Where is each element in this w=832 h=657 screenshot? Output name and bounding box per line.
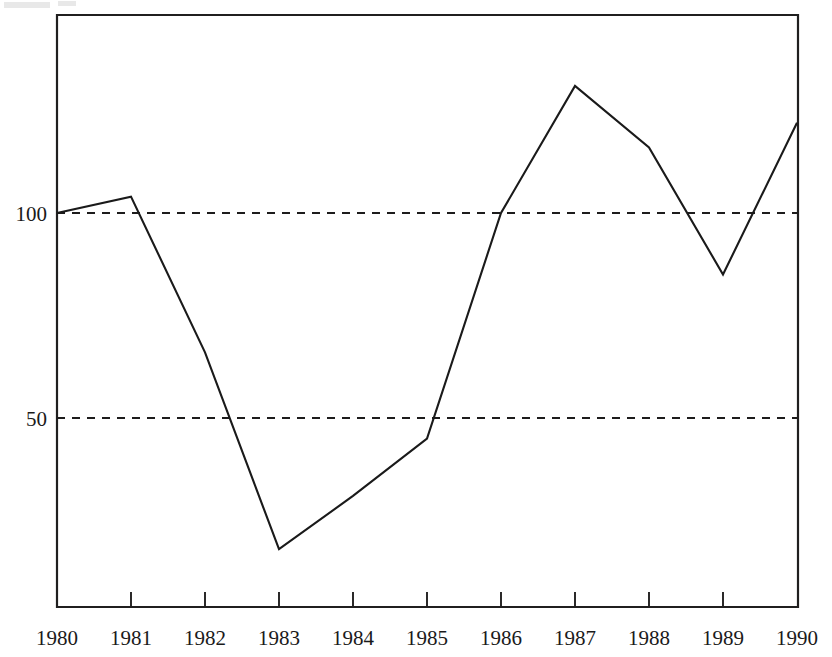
xtick-label-1988: 1988 <box>628 626 670 650</box>
scan-artifact-secondary <box>58 1 76 6</box>
xtick-label-1990: 1990 <box>776 626 818 650</box>
data-series-line <box>57 86 797 549</box>
line-chart-figure: 100 50 1980 1981 1982 1983 1984 1985 198… <box>0 0 832 657</box>
xtick-label-1981: 1981 <box>110 626 152 650</box>
xtick-label-1989: 1989 <box>702 626 744 650</box>
xtick-label-1984: 1984 <box>332 626 375 650</box>
xtick-label-1982: 1982 <box>184 626 226 650</box>
xtick-label-1987: 1987 <box>554 626 596 650</box>
xtick-label-1983: 1983 <box>258 626 300 650</box>
scan-artifact <box>4 2 50 8</box>
xtick-label-1980: 1980 <box>36 626 78 650</box>
plot-frame <box>57 15 798 607</box>
xtick-label-1986: 1986 <box>480 626 522 650</box>
chart-canvas: 100 50 1980 1981 1982 1983 1984 1985 198… <box>0 0 832 657</box>
ytick-label-50: 50 <box>26 407 47 431</box>
ytick-label-100: 100 <box>16 202 48 226</box>
xtick-label-1985: 1985 <box>406 626 448 650</box>
